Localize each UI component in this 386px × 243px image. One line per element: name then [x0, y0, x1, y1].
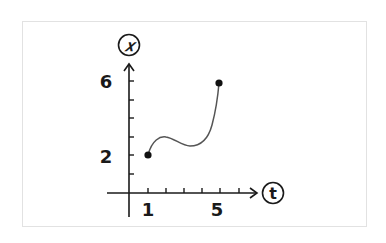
x-tick-label-1: 1: [142, 199, 155, 220]
y-tick-label-6: 6: [100, 71, 113, 92]
x-tick-label-5: 5: [211, 199, 224, 220]
data-curve: [148, 83, 219, 155]
start-point: [144, 151, 151, 158]
chart-canvas: 6 2 1 5 𝑥 t: [0, 0, 386, 243]
y-tick-label-2: 2: [100, 146, 113, 167]
end-point: [215, 79, 222, 86]
x-axis-label: t: [269, 184, 277, 203]
